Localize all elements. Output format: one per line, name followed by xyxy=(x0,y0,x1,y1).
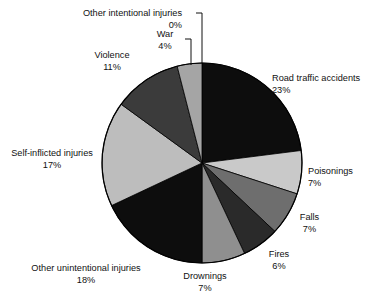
leader-line-group xyxy=(185,13,202,65)
slice-label-value: 11% xyxy=(82,62,142,74)
slice-label-text: Fires xyxy=(261,249,297,261)
slice-label-value: 7% xyxy=(174,283,236,295)
slice-label-other-unintentional-injuries: Other unintentional injuries 18% xyxy=(18,263,154,286)
slice-label-other-intentional-injuries: Other intentional injuries 0% xyxy=(60,8,182,31)
slice-label-text: War xyxy=(146,29,184,41)
slice-label-falls: Falls 7% xyxy=(293,212,326,235)
slice-label-text: Drownings xyxy=(174,271,236,283)
slice-label-text: Violence xyxy=(82,50,142,62)
slice-label-value: 7% xyxy=(293,224,326,236)
slice-label-text: Self-inflicted injuries xyxy=(4,148,100,160)
slice-label-value: 7% xyxy=(308,178,368,190)
slice-label-value: 18% xyxy=(18,275,154,287)
slice-label-self-inflicted-injuries: Self-inflicted injuries 17% xyxy=(4,148,100,171)
slice-label-text: Road traffic accidents xyxy=(272,73,371,85)
slice-label-fires: Fires 6% xyxy=(261,249,297,272)
slice-label-value: 23% xyxy=(272,85,371,97)
slice-label-value: 17% xyxy=(4,160,100,172)
slice-label-drownings: Drownings 7% xyxy=(174,271,236,294)
slice-label-value: 4% xyxy=(146,41,184,53)
pie-chart-figure: Other intentional injuries 0% War 4% Vio… xyxy=(0,0,371,299)
slice-label-violence: Violence 11% xyxy=(82,50,142,73)
slice-label-text: Other intentional injuries xyxy=(60,8,182,20)
slice-label-text: Falls xyxy=(293,212,326,224)
leader-line-other-intentional-injuries xyxy=(196,13,202,63)
slice-label-text: Poisonings xyxy=(308,166,368,178)
slice-label-text: Other unintentional injuries xyxy=(18,263,154,275)
leader-line-war xyxy=(185,39,191,65)
slice-label-poisonings: Poisonings 7% xyxy=(308,166,368,189)
slice-label-value: 6% xyxy=(261,261,297,273)
slice-label-war: War 4% xyxy=(146,29,184,52)
slice-label-road-traffic-accidents: Road traffic accidents 23% xyxy=(272,73,371,96)
